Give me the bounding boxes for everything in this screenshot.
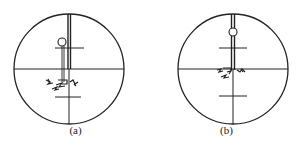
caption-a: (a) [0,124,151,136]
panel-a: (a) [0,0,151,147]
target-ring-icon [58,38,66,46]
target-image-icon [217,68,245,78]
target-ring-icon [229,28,237,36]
panel-b: (b) [151,0,302,147]
caption-b: (b) [151,124,302,136]
